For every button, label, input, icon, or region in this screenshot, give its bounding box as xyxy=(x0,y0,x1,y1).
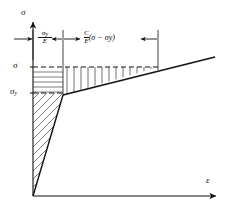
plastic-dim-paren: (σ − σy) xyxy=(89,33,115,42)
x-axis-label: ε xyxy=(206,176,210,185)
sigma-y-level-label: σy xyxy=(10,87,17,96)
stress-strain-curve xyxy=(33,57,215,196)
elastic-strain-dimension-label: σy E xyxy=(38,30,52,46)
sigma-level-label: σ xyxy=(13,61,17,70)
upper-left-block-hatch xyxy=(33,72,63,92)
plastic-strain-dimension-label: C E (σ − σy) xyxy=(84,30,115,46)
elastic-dim-denominator: E xyxy=(38,37,52,45)
elastic-triangle-hatch xyxy=(0,76,176,196)
elastic-dim-numerator: σy xyxy=(38,30,52,37)
hardening-wedge-hatch xyxy=(67,60,151,100)
y-axis-label: σ xyxy=(21,8,25,17)
sigma-y-subscript: y xyxy=(14,90,17,96)
